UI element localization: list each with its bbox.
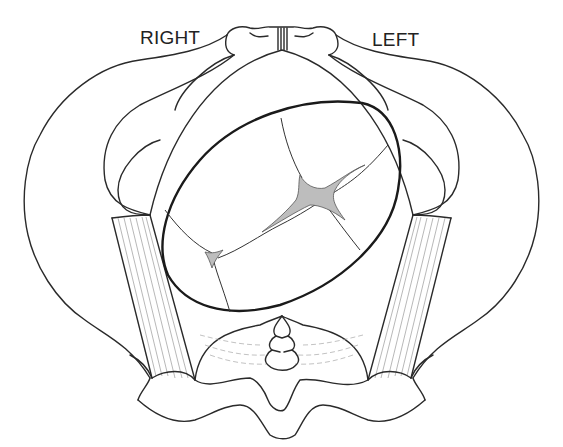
posterior-fontanelle: [205, 250, 223, 268]
pubic-arch: [138, 400, 425, 439]
fetal-head: [163, 102, 401, 311]
coronal-suture-upper: [281, 118, 302, 178]
coccyx: [265, 316, 298, 370]
lambdoid-suture: [165, 210, 230, 312]
pelvis-line-drawing: [0, 0, 563, 447]
left-ligament-fibers: [375, 217, 445, 378]
sacrotuberous-dashes: [200, 335, 363, 364]
pelvic-brim: [150, 50, 413, 215]
right-ligament-fibers: [118, 217, 188, 378]
anterior-fontanelle: [262, 165, 365, 232]
pelvis-diagram: RIGHT LEFT: [0, 0, 563, 447]
